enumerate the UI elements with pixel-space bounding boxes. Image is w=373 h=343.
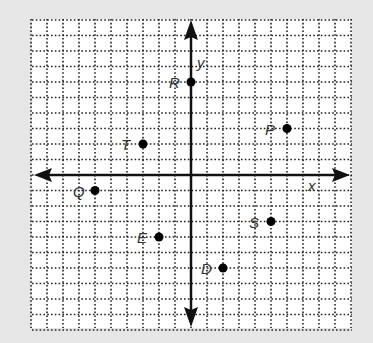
point-q-label: Q: [73, 183, 85, 200]
point-s-dot: [267, 217, 276, 226]
coordinate-grid: x y RPTQSED: [0, 0, 373, 343]
point-e-label: E: [137, 229, 148, 246]
point-p-label: P: [265, 121, 275, 138]
point-e-dot: [155, 233, 164, 242]
point-r-label: R: [169, 74, 180, 91]
point-s-label: S: [249, 214, 259, 231]
point-q-dot: [91, 186, 100, 195]
x-axis-label: x: [307, 177, 316, 194]
point-d-label: D: [201, 260, 212, 277]
point-r-dot: [187, 78, 196, 87]
coordinate-plane-figure: x y RPTQSED: [0, 0, 373, 343]
point-p-dot: [283, 124, 292, 133]
point-d-dot: [219, 264, 228, 273]
point-t-dot: [139, 140, 148, 149]
